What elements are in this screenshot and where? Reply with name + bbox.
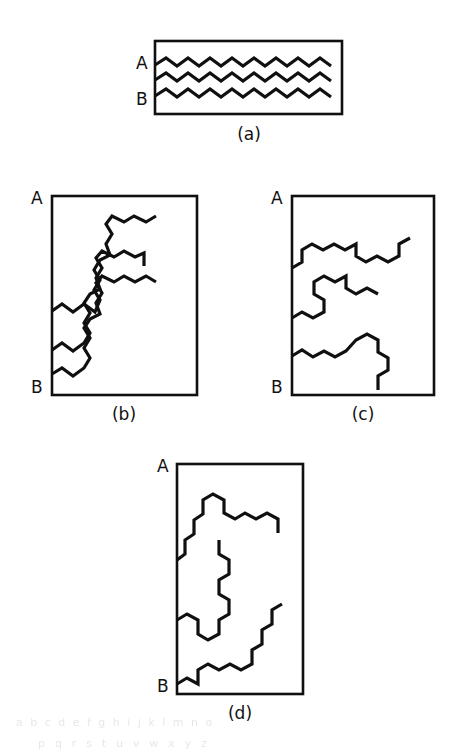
panel-c-caption: (c) [352, 404, 375, 424]
panel-c-frame [292, 196, 434, 395]
panel-d-caption: (d) [228, 703, 252, 723]
figure-root: A B (a) A B (b) A B (c) [0, 0, 468, 753]
panel-a-label-surface-a: A [136, 53, 148, 73]
panel-d-label-surface-b: B [157, 676, 169, 696]
panel-b: A B (b) [31, 188, 197, 424]
panel-d-frame [177, 464, 303, 694]
panel-d: A B (d) [157, 456, 303, 723]
panel-b-caption: (b) [112, 404, 136, 424]
panel-c-label-surface-b: B [271, 377, 283, 397]
panel-d-label-surface-a: A [157, 456, 169, 476]
panel-b-label-surface-b: B [31, 377, 43, 397]
panel-c-label-surface-a: A [271, 188, 283, 208]
panel-b-frame [52, 196, 197, 395]
panel-a: A B (a) [136, 41, 342, 144]
panel-b-label-surface-a: A [31, 188, 43, 208]
panel-a-label-surface-b: B [136, 89, 148, 109]
panel-c: A B (c) [271, 188, 434, 424]
polymer-conformation-diagram: A B (a) A B (b) A B (c) [0, 0, 468, 753]
panel-a-caption: (a) [237, 124, 261, 144]
